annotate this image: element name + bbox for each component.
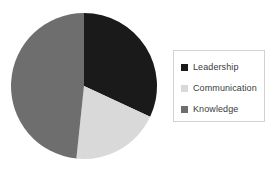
legend-swatch-communication [181,85,188,92]
legend-swatch-leadership [181,64,188,71]
legend-item-list: LeadershipCommunicationKnowledge [181,57,264,119]
pie-slice-knowledge [11,13,84,159]
pie-chart-figure: LeadershipCommunicationKnowledge [0,0,276,169]
legend-item-leadership[interactable]: Leadership [181,57,264,77]
legend-item-communication[interactable]: Communication [181,78,264,98]
legend-label: Knowledge [193,104,238,114]
legend-item-knowledge[interactable]: Knowledge [181,99,264,119]
legend-label: Communication [193,83,257,93]
legend-swatch-knowledge [181,106,188,113]
legend-label: Leadership [193,62,239,72]
pie-chart-svg [10,12,158,160]
chart-legend: LeadershipCommunicationKnowledge [173,50,265,122]
pie-chart-plot-area [10,12,158,160]
pie-slice-group [11,13,157,159]
